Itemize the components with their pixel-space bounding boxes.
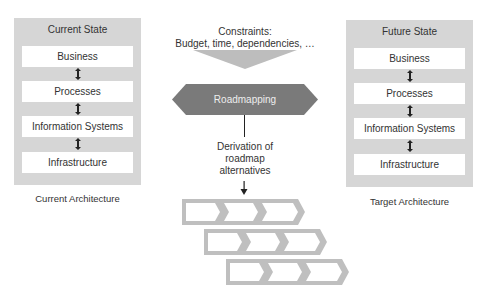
derivation-text: Derivation of roadmap alternatives [190, 141, 300, 177]
layer-processes: Processes [354, 83, 465, 104]
future-state-panel: Future State Business Processes Informat… [346, 20, 473, 187]
constraints-text: Constraints: Budget, time, dependencies,… [160, 26, 330, 50]
layer-processes: Processes [22, 81, 133, 102]
constraints-funnel-arrow [193, 50, 297, 70]
current-architecture-caption: Current Architecture [14, 193, 141, 204]
target-architecture-caption: Target Architecture [346, 196, 473, 207]
connector-line [244, 115, 245, 137]
current-state-title: Current State [14, 24, 141, 35]
layer-business: Business [22, 46, 133, 67]
roadmap-alternative-2 [204, 228, 328, 256]
layer-information-systems: Information Systems [22, 116, 133, 137]
roadmapping-label: Roadmapping [172, 84, 318, 115]
constraints-items: Budget, time, dependencies, … [160, 38, 330, 50]
current-state-panel: Current State Business Processes Informa… [14, 18, 141, 185]
double-arrow-icon [406, 70, 414, 82]
roadmap-alternative-3 [226, 258, 350, 286]
double-arrow-icon [74, 138, 82, 150]
down-arrow-icon [240, 181, 248, 195]
layer-infrastructure: Infrastructure [354, 154, 465, 175]
constraints-label: Constraints: [160, 26, 330, 38]
double-arrow-icon [406, 105, 414, 117]
derivation-line-1: Derivation of [190, 141, 300, 153]
layer-infrastructure: Infrastructure [22, 152, 133, 173]
double-arrow-icon [406, 140, 414, 152]
roadmap-alternative-1 [182, 198, 306, 226]
future-state-title: Future State [346, 26, 473, 37]
layer-business: Business [354, 48, 465, 69]
double-arrow-icon [74, 68, 82, 80]
double-arrow-icon [74, 103, 82, 115]
derivation-line-2: roadmap [190, 153, 300, 165]
derivation-line-3: alternatives [190, 165, 300, 177]
layer-information-systems: Information Systems [354, 118, 465, 139]
